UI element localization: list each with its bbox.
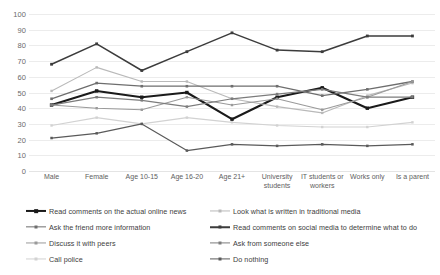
data-point (276, 93, 279, 96)
series-line (52, 33, 413, 71)
legend-marker (35, 242, 38, 245)
data-point (50, 97, 53, 100)
data-point (411, 35, 414, 38)
data-point (231, 98, 234, 101)
y-axis-tick-70: 70 (2, 57, 26, 66)
legend-marker (219, 242, 222, 245)
data-point (231, 31, 234, 34)
legend-swatch-icon (210, 223, 230, 232)
legend-item[interactable]: Ask the friend more information (0, 219, 210, 235)
legend-label: Read comments on social media to determi… (233, 223, 417, 232)
data-point (321, 143, 324, 146)
data-point (321, 50, 324, 53)
legend-item[interactable]: Read comments on social media to determi… (210, 219, 440, 235)
data-point (276, 49, 279, 52)
x-axis-tick-0: Male (29, 173, 74, 199)
y-axis-tick-90: 90 (2, 25, 26, 34)
data-point (140, 85, 143, 88)
data-point (321, 109, 323, 111)
data-point (366, 88, 369, 91)
data-point (276, 85, 279, 88)
data-point (95, 82, 98, 85)
x-axis-tick-7: Works only (345, 173, 390, 199)
data-point (141, 109, 143, 111)
legend-item[interactable]: Call police (0, 251, 210, 267)
x-axis-tick-6: IT students or workers (300, 173, 345, 199)
x-axis-tick-3: Age 16-20 (164, 173, 209, 199)
data-point (50, 90, 52, 92)
data-point (231, 143, 234, 146)
legend-marker (219, 258, 222, 261)
legend-label: Ask from someone else (233, 239, 309, 248)
x-axis-tick-8: Is a parent (390, 173, 435, 199)
legend-swatch-icon (210, 207, 230, 216)
data-point (321, 88, 324, 91)
x-axis-tick-2: Age 10-15 (119, 173, 164, 199)
y-axis-tick-0: 0 (2, 167, 26, 176)
legend-item[interactable]: Read comments on the actual online news (0, 203, 210, 219)
data-point (95, 42, 98, 45)
legend-label: Call police (49, 255, 83, 264)
data-point (411, 121, 413, 123)
legend-swatch-icon (26, 255, 46, 264)
data-point (50, 124, 52, 126)
data-point (141, 123, 144, 126)
legend-swatch-icon (26, 239, 46, 248)
data-point (95, 116, 97, 118)
legend-label: Ask the friend more information (49, 223, 150, 232)
series-2 (50, 80, 413, 100)
series-line (52, 88, 413, 119)
data-point (411, 80, 413, 82)
data-point (366, 145, 369, 148)
data-point (411, 96, 414, 99)
y-axis-tick-30: 30 (2, 119, 26, 128)
data-point (230, 117, 233, 120)
series-line (52, 124, 413, 151)
series-0 (50, 86, 414, 121)
data-point (321, 112, 323, 114)
y-axis: 1009080706050403020100 (0, 14, 26, 171)
y-axis-tick-10: 10 (2, 151, 26, 160)
data-point (366, 107, 369, 110)
x-axis-tick-5: University students (255, 173, 300, 199)
data-point (141, 99, 144, 102)
x-axis-tick-1: Female (74, 173, 119, 199)
x-axis: MaleFemaleAge 10-15Age 16-20Age 21+Unive… (29, 173, 435, 199)
legend-marker (34, 209, 38, 213)
data-point (50, 63, 53, 66)
chart-legend: Read comments on the actual online newsL… (0, 203, 440, 269)
data-point (95, 96, 98, 99)
legend-marker (35, 226, 38, 229)
data-point (186, 85, 189, 88)
legend-swatch-icon (26, 223, 46, 232)
legend-label: Read comments on the actual online news (49, 207, 186, 216)
data-point (140, 69, 143, 72)
data-point (185, 91, 188, 94)
data-point (186, 149, 189, 152)
data-point (186, 96, 188, 98)
legend-item[interactable]: Do nothing (210, 251, 440, 267)
legend-item[interactable]: Discuss it with peers (0, 235, 210, 251)
data-point (95, 132, 98, 135)
data-point (186, 105, 189, 108)
data-point (231, 104, 233, 106)
legend-swatch-icon (26, 207, 46, 216)
data-point (276, 145, 279, 148)
data-point (321, 94, 324, 97)
data-point (50, 104, 53, 107)
data-point (186, 80, 188, 82)
data-point (276, 98, 278, 100)
line-chart: 1009080706050403020100 MaleFemaleAge 10-… (0, 0, 440, 275)
data-point (186, 116, 188, 118)
y-axis-tick-50: 50 (2, 88, 26, 97)
data-point (95, 107, 97, 109)
legend-item[interactable]: Ask from someone else (210, 235, 440, 251)
data-point (276, 105, 278, 107)
legend-marker (35, 258, 38, 261)
legend-label: Discuss it with peers (49, 239, 116, 248)
data-point (276, 124, 278, 126)
plot-area: 1009080706050403020100 MaleFemaleAge 10-… (0, 0, 440, 200)
y-axis-tick-40: 40 (2, 104, 26, 113)
data-point (140, 96, 143, 99)
legend-item[interactable]: Look what is written in traditional medi… (210, 203, 440, 219)
